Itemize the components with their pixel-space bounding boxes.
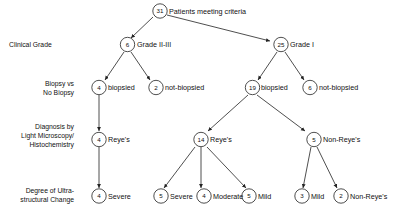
edge-grade-2-3-to-not-biopsied: [131, 52, 150, 80]
edge-grade-1-to-not-biopsied: [285, 52, 304, 80]
node-count-root: 31: [157, 7, 164, 14]
node-count-g23-severe: 4: [97, 192, 101, 199]
node-count-g23-biopsied: 4: [97, 84, 101, 91]
node-label-g1-severe: Severe: [170, 192, 193, 201]
nodes-layer: [92, 4, 348, 203]
node-label-grade-2-3: Grade II-III: [137, 40, 171, 49]
node-label-grade-1: Grade I: [290, 40, 314, 49]
node-count-g1-moderate: 4: [202, 192, 206, 199]
node-label-g23-severe: Severe: [108, 192, 131, 201]
node-label-g1-mild: Mild: [258, 192, 271, 201]
node-count-g1-reyes: 14: [198, 136, 205, 143]
node-label-g23-not-biopsied: not-biopsied: [165, 83, 204, 92]
edges-grade1-to-biopsy: [258, 52, 304, 80]
row-label-ultrastructural-line2: structural Change: [20, 196, 74, 204]
node-count-g1-not-biopsied: 6: [308, 84, 312, 91]
node-count-nr-mild: 3: [300, 192, 304, 199]
row-label-diagnosis-line2: Light Microscopy/: [21, 132, 74, 140]
edges-root-to-grade: [131, 15, 270, 41]
node-count-g1-severe: 5: [159, 192, 163, 199]
row-label-diagnosis-line3: Histochemistry: [29, 141, 74, 149]
node-count-g1-non-reyes: 5: [312, 136, 316, 143]
node-count-grade-2-3: 6: [126, 41, 130, 48]
edge-g1-biopsied-to-reyes: [208, 95, 248, 131]
row-label-diagnosis-line1: Diagnosis by: [35, 123, 75, 131]
row-label-ultrastructural-line1: Degree of Ultra-: [26, 187, 74, 195]
edges-grade23-to-biopsy: [105, 52, 150, 80]
node-count-g1-biopsied: 19: [249, 84, 256, 91]
node-label-nr-non-reyes: Non-Reye's: [350, 192, 388, 201]
node-count-g23-reyes: 4: [97, 136, 101, 143]
edge-non-reyes-to-non-reyes: [317, 147, 337, 188]
flowchart-page: 31 6 25 4 2 19 6 4 14 5 4 5 4 5 3 2 Pati…: [0, 0, 402, 217]
node-label-root: Patients meeting criteria: [169, 7, 246, 16]
node-label-g23-biopsied: biopsied: [108, 83, 135, 92]
edges-biopsy-to-diagnosis: [99, 95, 305, 131]
row-label-clinical-grade: Clinical Grade: [9, 41, 52, 48]
edges-diagnosis-to-ultrastructure: [99, 147, 337, 188]
row-labels-layer: Clinical Grade Biopsy vs No Biopsy Diagn…: [9, 41, 75, 204]
node-label-g1-reyes: Reye's: [210, 135, 232, 144]
node-count-g1-mild: 5: [247, 192, 251, 199]
edge-non-reyes-to-mild: [303, 147, 311, 188]
node-label-nr-mild: Mild: [311, 192, 324, 201]
node-count-g23-not-biopsied: 2: [154, 84, 158, 91]
decision-tree-svg: 31 6 25 4 2 19 6 4 14 5 4 5 4 5 3 2 Pati…: [0, 0, 402, 217]
edge-root-to-grade-1: [167, 15, 270, 41]
node-label-g1-biopsied: biopsied: [261, 83, 288, 92]
row-label-biopsy-line1: Biopsy vs: [45, 80, 75, 88]
node-labels-layer: Patients meeting criteria Grade II-III G…: [108, 7, 388, 201]
node-label-g1-moderate: Moderate: [213, 192, 243, 201]
edge-grade-2-3-to-biopsied: [105, 52, 124, 80]
edge-root-to-grade-2-3: [131, 17, 153, 38]
edge-g1-reyes-to-mild: [207, 147, 246, 188]
node-label-g1-non-reyes: Non-Reye's: [323, 135, 361, 144]
row-label-biopsy-line2: No Biopsy: [43, 89, 75, 97]
node-count-grade-1: 25: [278, 41, 285, 48]
node-label-g23-reyes: Reye's: [108, 135, 130, 144]
node-label-g1-not-biopsied: not-biopsied: [319, 83, 358, 92]
edge-grade-1-to-biopsied: [258, 52, 277, 80]
node-count-nr-non-reyes: 2: [339, 192, 343, 199]
edge-g1-biopsied-to-non-reyes: [257, 95, 305, 131]
edge-g1-reyes-to-severe: [164, 147, 195, 188]
